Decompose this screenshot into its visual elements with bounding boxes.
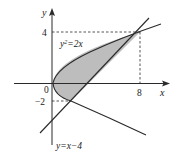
origin-label: 0: [44, 85, 49, 95]
y-axis-label: y: [41, 7, 47, 18]
graph-figure: y x 0 4 −2 8 y2=2x y=x−4: [0, 0, 176, 161]
tick-label-x8: 8: [137, 88, 142, 98]
parabola-label: y2=2x: [59, 39, 83, 50]
tick-label-yneg2: −2: [35, 97, 45, 107]
line-label: y=x−4: [55, 141, 82, 151]
tick-label-y4: 4: [42, 28, 47, 38]
parabola-label-rest: =2x: [67, 39, 83, 49]
x-axis-label: x: [159, 87, 165, 98]
